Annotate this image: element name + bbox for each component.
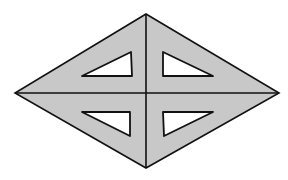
rhombus-diagram — [0, 0, 288, 180]
